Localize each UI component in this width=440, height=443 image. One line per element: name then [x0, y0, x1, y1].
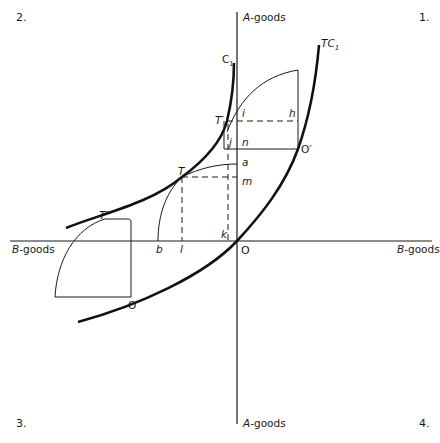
- j-label: j: [229, 137, 232, 148]
- h-label: h: [289, 108, 296, 119]
- quadrant-1-label: 1.: [419, 12, 430, 23]
- l-label: l: [180, 244, 183, 255]
- axis-label-b-goods-right: B-goods: [397, 244, 440, 255]
- c1-label: C1: [222, 54, 234, 68]
- tc1-curve: [78, 45, 319, 322]
- tc1-label: TC1: [321, 38, 339, 52]
- axis-label-a-goods-top: A-goods: [243, 12, 286, 23]
- axis-label-a-goods-bottom: A-goods: [243, 418, 286, 429]
- t-label: T: [178, 166, 184, 177]
- a-label: a: [242, 157, 248, 168]
- m-label: m: [242, 176, 252, 187]
- b-label: b: [156, 244, 163, 255]
- o-double-prime-label: O″: [128, 300, 140, 311]
- axis-label-b-goods-left: B-goods: [12, 244, 55, 255]
- quadrant-3-label: 3.: [16, 418, 27, 429]
- origin-label: O: [241, 245, 250, 256]
- t-double-prime-label: T″: [99, 210, 109, 221]
- c1-curve: [66, 63, 234, 228]
- quadrant-2-label: 2.: [16, 12, 27, 23]
- q1-production-arc: [227, 70, 298, 132]
- k-label: k: [221, 229, 227, 240]
- n-label: n: [242, 137, 249, 148]
- t-prime-label: T′: [215, 115, 224, 126]
- quadrant-4-label: 4.: [419, 418, 430, 429]
- q3-production-arc: [55, 219, 131, 297]
- i-label: i: [242, 108, 245, 119]
- o-prime-label: O′: [301, 144, 312, 155]
